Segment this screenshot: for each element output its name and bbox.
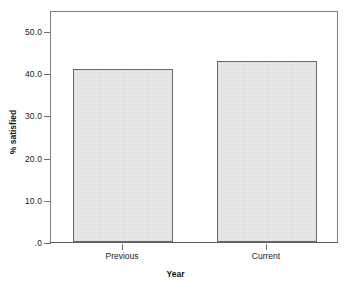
y-axis-tick-label: .0 [35, 238, 42, 248]
x-axis-tick [122, 244, 123, 250]
x-axis-title: Year [0, 269, 351, 279]
y-axis-tick-label: 30.0 [25, 111, 42, 121]
bar-chart: % satisfied .010.020.030.040.050.0 Previ… [0, 0, 351, 287]
y-axis-tick-label: 50.0 [25, 27, 42, 37]
y-axis-title: % satisfied [8, 92, 18, 172]
y-axis-tick [44, 243, 51, 244]
y-axis-tick-label: 20.0 [25, 154, 42, 164]
plot-area [50, 11, 338, 243]
y-axis-tick-label: 10.0 [25, 196, 42, 206]
x-axis-tick [266, 244, 267, 250]
x-axis-tick-label: Previous [105, 251, 138, 261]
bar-current[interactable] [217, 61, 317, 242]
x-axis-tick-label: Current [252, 251, 280, 261]
bar-previous[interactable] [73, 69, 173, 242]
y-axis-tick-label: 40.0 [25, 69, 42, 79]
